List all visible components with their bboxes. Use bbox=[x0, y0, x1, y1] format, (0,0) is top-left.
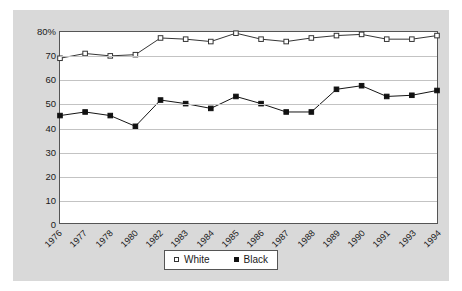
x-tick-label: 1993 bbox=[387, 228, 418, 259]
data-point-marker bbox=[158, 36, 163, 41]
y-tick-label: 20 bbox=[16, 171, 56, 180]
x-tick-label: 1977 bbox=[58, 228, 89, 259]
data-point-marker bbox=[359, 83, 364, 88]
y-tick-label: 80% bbox=[16, 27, 56, 36]
data-point-marker bbox=[284, 110, 289, 115]
data-point-marker bbox=[334, 87, 339, 92]
data-point-marker bbox=[83, 51, 88, 56]
data-point-marker bbox=[209, 39, 214, 44]
open-square-marker-icon bbox=[174, 257, 179, 262]
y-axis: 80%706050403020100 bbox=[13, 31, 56, 224]
data-point-marker bbox=[209, 106, 214, 111]
data-point-marker bbox=[234, 31, 239, 36]
y-tick-label: 60 bbox=[16, 75, 56, 84]
series-plot bbox=[60, 32, 437, 223]
data-point-marker bbox=[309, 110, 314, 115]
data-point-marker bbox=[410, 37, 415, 42]
data-point-marker bbox=[58, 113, 63, 118]
gridline bbox=[60, 56, 437, 57]
data-point-marker bbox=[183, 37, 188, 42]
data-point-marker bbox=[158, 98, 163, 103]
data-point-marker bbox=[259, 37, 264, 42]
legend-label-white: White bbox=[184, 254, 210, 265]
x-tick-label: 1991 bbox=[361, 228, 392, 259]
y-tick-label: 30 bbox=[16, 147, 56, 156]
data-point-marker bbox=[384, 37, 389, 42]
gridline bbox=[60, 153, 437, 154]
data-point-marker bbox=[284, 39, 289, 44]
data-point-marker bbox=[309, 36, 314, 41]
chart-legend: White Black bbox=[164, 250, 278, 270]
gridline bbox=[60, 129, 437, 130]
data-point-marker bbox=[410, 93, 415, 98]
gridline bbox=[60, 80, 437, 81]
data-point-marker bbox=[83, 110, 88, 115]
legend-label-black: Black bbox=[244, 254, 268, 265]
y-tick-label: 40 bbox=[16, 123, 56, 132]
legend-item-white[interactable]: White bbox=[174, 254, 210, 265]
filled-square-marker-icon bbox=[234, 257, 239, 262]
series-line-black bbox=[60, 86, 437, 127]
data-point-marker bbox=[234, 94, 239, 99]
legend-item-black[interactable]: Black bbox=[234, 254, 268, 265]
gridline bbox=[60, 177, 437, 178]
x-tick-label: 1988 bbox=[285, 228, 316, 259]
data-point-marker bbox=[435, 88, 440, 93]
plot-area bbox=[59, 31, 438, 224]
y-tick-label: 10 bbox=[16, 195, 56, 204]
x-tick-label: 1978 bbox=[83, 228, 114, 259]
data-point-marker bbox=[435, 33, 440, 38]
y-tick-label: 0 bbox=[16, 220, 56, 229]
chart-panel: 80%706050403020100 197619771978198019821… bbox=[13, 10, 449, 281]
gridline bbox=[60, 104, 437, 105]
data-point-marker bbox=[384, 94, 389, 99]
y-tick-label: 70 bbox=[16, 51, 56, 60]
series-line-white bbox=[60, 33, 437, 58]
data-point-marker bbox=[108, 113, 113, 118]
data-point-marker bbox=[359, 32, 364, 37]
data-point-marker bbox=[334, 33, 339, 38]
y-tick-label: 50 bbox=[16, 99, 56, 108]
gridline bbox=[60, 201, 437, 202]
